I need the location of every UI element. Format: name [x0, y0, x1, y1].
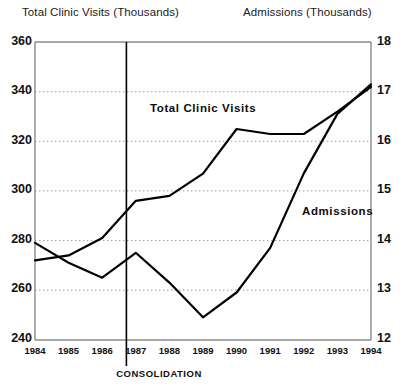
x-axis-tick-1989: 1989 — [186, 345, 220, 356]
x-axis-tick-1986: 1986 — [85, 345, 119, 356]
gridlines — [35, 92, 371, 291]
series-line-admissions — [35, 84, 371, 317]
consolidation-annotation-label: CONSOLIDATION — [79, 368, 239, 379]
x-axis-tick-1987: 1987 — [119, 345, 153, 356]
x-axis-tick-1984: 1984 — [18, 345, 52, 356]
series-label-admissions: Admissions — [302, 205, 373, 217]
x-axis-tick-1994: 1994 — [354, 345, 388, 356]
x-axis-tick-1993: 1993 — [320, 345, 354, 356]
x-axis-tick-1990: 1990 — [220, 345, 254, 356]
x-axis-tick-1992: 1992 — [287, 345, 321, 356]
x-axis-tick-1985: 1985 — [52, 345, 86, 356]
x-axis-tick-1988: 1988 — [152, 345, 186, 356]
clinic-visits-admissions-chart: Total Clinic Visits (Thousands) Admissio… — [0, 0, 405, 386]
x-axis-tick-1991: 1991 — [253, 345, 287, 356]
series-label-total-clinic-visits: Total Clinic Visits — [150, 102, 256, 114]
plot-canvas — [0, 0, 405, 386]
